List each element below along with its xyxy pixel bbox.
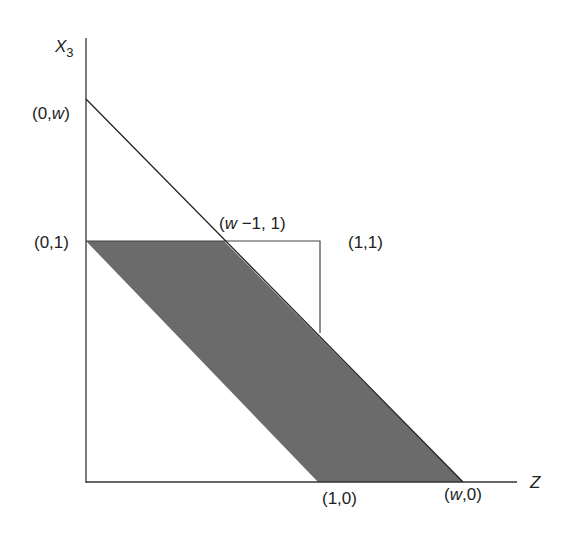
label-1-1: (1,1) <box>348 233 383 252</box>
label-w-minus-1-1: (w −1, 1) <box>219 214 286 233</box>
diagram-canvas: X3 Z (0,w) (0,1) (w −1, 1) (1,1) (1,0) (… <box>0 0 571 537</box>
label-1-0: (1,0) <box>322 489 357 508</box>
y-axis-label: X3 <box>54 37 74 60</box>
x-axis-label: Z <box>529 473 541 492</box>
shaded-region <box>86 241 463 482</box>
label-0-w: (0,w) <box>32 104 70 123</box>
label-0-1: (0,1) <box>34 233 69 252</box>
label-w-0: (w,0) <box>444 485 482 504</box>
